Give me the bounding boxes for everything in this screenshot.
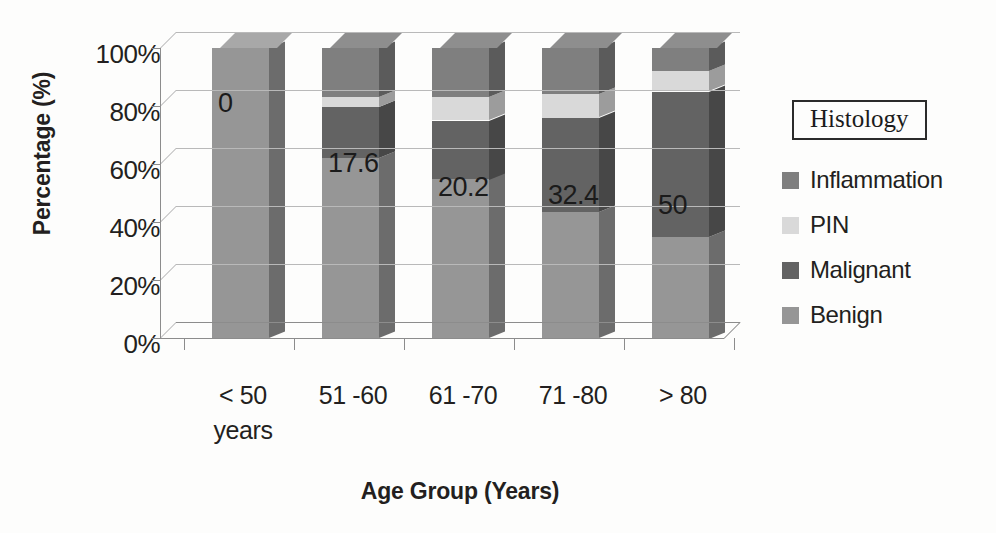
bar-segment-side-inflammation — [599, 42, 615, 95]
bar-segment-pin[interactable] — [322, 97, 379, 107]
bar-segment-pin[interactable] — [432, 97, 489, 120]
bar-data-label: 17.6 — [328, 148, 379, 179]
bar-segment-side-malignant — [489, 114, 505, 179]
bar-segment-side-inflammation — [379, 42, 395, 98]
legend-swatch-icon — [782, 307, 799, 324]
chart-legend: Histology InflammationPINMalignantBenign — [782, 100, 992, 346]
legend-item-pin[interactable]: PIN — [782, 211, 992, 239]
y-tick-label: 0% — [123, 329, 160, 360]
legend-item-benign[interactable]: Benign — [782, 301, 992, 329]
x-category-label: 61 -70 — [410, 378, 516, 413]
bar-segment-pin[interactable] — [652, 71, 709, 91]
bar-data-label: 50 — [658, 190, 687, 221]
y-tick-label: 60% — [109, 155, 160, 186]
legend-title-box: Histology — [792, 100, 927, 140]
x-category-label: 51 -60 — [300, 378, 406, 413]
gridline — [176, 148, 740, 149]
legend-items: InflammationPINMalignantBenign — [782, 166, 992, 329]
bar-segment-side-malignant — [599, 111, 615, 211]
x-tick-mark — [734, 338, 735, 350]
x-axis-line — [160, 338, 724, 339]
bar-segment-side-benign — [379, 152, 395, 338]
bar-data-label: 32.4 — [548, 180, 599, 211]
chart-page: Percentage (%) 100%80%60%40%20%0% 017.62… — [0, 0, 996, 533]
legend-item-label: Malignant — [810, 256, 910, 284]
x-tick-mark — [624, 338, 625, 350]
gridline — [176, 264, 740, 265]
legend-item-inflammation[interactable]: Inflammation — [782, 166, 992, 194]
floor-back-edge — [176, 322, 740, 323]
bar-column[interactable] — [212, 20, 269, 365]
bar-segment-side-malignant — [379, 101, 395, 158]
gridline — [176, 90, 740, 91]
y-axis-tick-labels: 100%80%60%40%20%0% — [44, 28, 160, 358]
bar-segment-side-benign — [489, 173, 505, 338]
x-category-label: < 50 years — [190, 378, 296, 448]
legend-item-malignant[interactable]: Malignant — [782, 256, 992, 284]
bar-segment-side-inflammation — [489, 42, 505, 98]
x-axis-title: Age Group (Years) — [160, 478, 760, 505]
bar-segment-pin[interactable] — [542, 94, 599, 117]
legend-swatch-icon — [782, 262, 799, 279]
x-tick-mark — [404, 338, 405, 350]
y-tick-label: 100% — [96, 39, 161, 70]
bar-segment-inflammation[interactable] — [542, 48, 599, 94]
y-tick-label: 80% — [109, 97, 160, 128]
y-tick-label: 20% — [109, 271, 160, 302]
legend-title: Histology — [810, 105, 909, 132]
x-tick-mark — [514, 338, 515, 350]
x-tick-mark — [294, 338, 295, 350]
bar-segment-benign[interactable] — [322, 158, 379, 338]
y-tick-label: 40% — [109, 213, 160, 244]
plot-area: 017.620.232.450 — [160, 20, 760, 365]
legend-swatch-icon — [782, 172, 799, 189]
bar-column[interactable] — [322, 20, 379, 365]
legend-item-label: Inflammation — [810, 166, 943, 194]
gridline — [176, 206, 740, 207]
bar-segment-side-benign — [269, 42, 285, 338]
bar-data-label: 20.2 — [438, 172, 489, 203]
bar-segment-benign[interactable] — [542, 212, 599, 338]
y-axis-line — [160, 48, 161, 338]
bar-segment-side-benign — [599, 205, 615, 338]
legend-item-label: PIN — [810, 211, 849, 239]
x-category-label: 71 -80 — [520, 378, 626, 413]
bar-segment-malignant[interactable] — [432, 121, 489, 180]
legend-item-label: Benign — [810, 301, 882, 329]
x-category-label: > 80 — [630, 378, 736, 413]
bar-segment-inflammation[interactable] — [652, 48, 709, 71]
bar-data-label: 0 — [218, 88, 233, 119]
bar-segment-side-malignant — [709, 85, 725, 236]
legend-swatch-icon — [782, 217, 799, 234]
gridline — [176, 32, 740, 33]
x-axis-category-labels: < 50 years51 -6061 -7071 -80> 80 — [160, 378, 780, 458]
x-tick-mark — [184, 338, 185, 350]
